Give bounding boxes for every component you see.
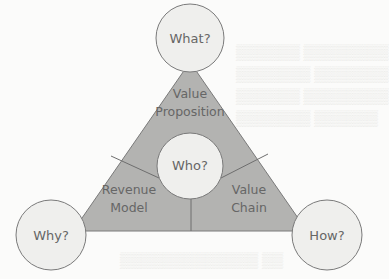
circle-how-label: How?: [309, 228, 344, 243]
segment-top-label-line2: Proposition: [155, 104, 224, 119]
segment-left-label-line1: Revenue: [102, 182, 157, 197]
circle-what-label: What?: [169, 31, 210, 46]
circle-why: Why?: [16, 200, 86, 270]
segment-right-label-line2: Chain: [231, 200, 267, 215]
segment-top-label-line1: Value: [173, 86, 208, 101]
circle-why-label: Why?: [33, 228, 69, 243]
circle-how: How?: [292, 200, 362, 270]
circle-who: Who?: [157, 133, 223, 199]
circle-who-label: Who?: [172, 158, 208, 173]
segment-right-label-line1: Value: [232, 182, 267, 197]
segment-left-label-line2: Model: [110, 200, 148, 215]
circle-what: What?: [156, 4, 224, 72]
